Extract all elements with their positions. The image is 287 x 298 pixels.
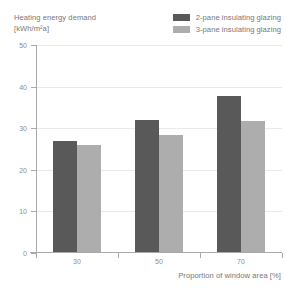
x-tick-label: 70 bbox=[237, 258, 245, 265]
chart-container: Heating energy demand [kWh/m²a] 2-pane i… bbox=[0, 0, 287, 298]
x-tick-label: 30 bbox=[73, 258, 81, 265]
x-axis-title: Proportion of window area [%] bbox=[178, 271, 281, 280]
legend-item-2-pane: 2-pane insulating glazing bbox=[173, 13, 281, 22]
y-tick-label: 0 bbox=[23, 250, 27, 257]
y-tick-label: 30 bbox=[19, 125, 27, 132]
x-axis-tick-labels: 305070 bbox=[36, 258, 282, 270]
legend-swatch-3-pane bbox=[173, 26, 190, 33]
y-tick-label: 10 bbox=[19, 208, 27, 215]
x-tick-mark bbox=[282, 253, 283, 258]
plot-wrapper: 01020304050 bbox=[36, 45, 282, 253]
bars-layer bbox=[36, 45, 282, 253]
legend-label-3-pane: 3-pane insulating glazing bbox=[196, 25, 281, 34]
bar bbox=[159, 135, 183, 253]
bar bbox=[135, 120, 159, 253]
y-tick-label: 50 bbox=[19, 42, 27, 49]
x-axis-line bbox=[30, 252, 282, 253]
bar bbox=[241, 121, 265, 253]
chart-title: Heating energy demand bbox=[14, 12, 96, 23]
y-tick-label: 20 bbox=[19, 166, 27, 173]
chart-unit-subtitle: [kWh/m²a] bbox=[14, 23, 96, 34]
bar bbox=[217, 96, 241, 253]
legend-swatch-2-pane bbox=[173, 14, 190, 21]
y-tick-label: 40 bbox=[19, 83, 27, 90]
bar bbox=[53, 141, 77, 253]
x-tick-label: 50 bbox=[155, 258, 163, 265]
bar bbox=[77, 145, 101, 253]
legend-label-2-pane: 2-pane insulating glazing bbox=[196, 13, 281, 22]
chart-title-block: Heating energy demand [kWh/m²a] bbox=[14, 12, 96, 34]
legend-item-3-pane: 3-pane insulating glazing bbox=[173, 25, 281, 34]
chart-legend: 2-pane insulating glazing 3-pane insulat… bbox=[173, 13, 281, 34]
plot-area: 01020304050 bbox=[36, 45, 282, 253]
